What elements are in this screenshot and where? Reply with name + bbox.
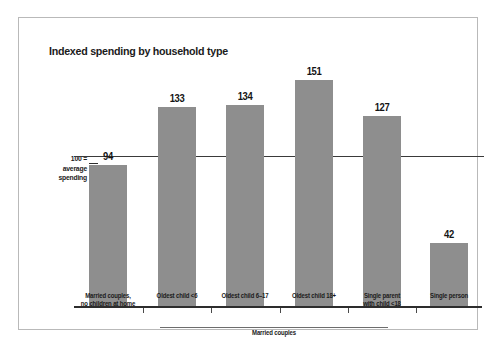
category-label-4-line-1: Single parent [364, 292, 400, 299]
bar-4 [363, 116, 401, 307]
bar-value-label-1: 133 [150, 92, 204, 104]
group-bracket-line [160, 327, 388, 328]
bar-1 [158, 107, 196, 307]
category-label-4-line-2: with child <18 [363, 300, 401, 307]
bar-value-label-5: 42 [422, 228, 476, 240]
category-label-0-line-2: no children at home [81, 300, 135, 307]
category-label-2-line-1: Oldest child 6–17 [221, 292, 268, 299]
bar-value-label-3: 151 [287, 65, 341, 77]
category-label-5-line-1: Single person [430, 292, 468, 299]
bar-2 [226, 105, 264, 306]
category-label-1-line-1: Oldest child <6 [157, 292, 198, 299]
category-label-5: Single person [407, 292, 492, 300]
category-label-0-line-1: Married couples, [85, 292, 130, 299]
chart-title: Indexed spending by household type [49, 45, 228, 57]
chart-frame: Indexed spending by household type 100 =… [18, 17, 478, 330]
bar-3 [295, 80, 333, 307]
bar-value-label-2: 134 [218, 90, 272, 102]
bar-value-label-4: 127 [355, 101, 409, 113]
group-bracket-label: Married couples [167, 329, 381, 336]
bar-value-label-0: 94 [81, 150, 135, 162]
category-label-3-line-1: Oldest child 18+ [292, 292, 336, 299]
reference-line-100 [74, 156, 484, 157]
plot-area: 94 133 134 151 127 42 [74, 58, 484, 307]
bar-0 [89, 165, 127, 306]
